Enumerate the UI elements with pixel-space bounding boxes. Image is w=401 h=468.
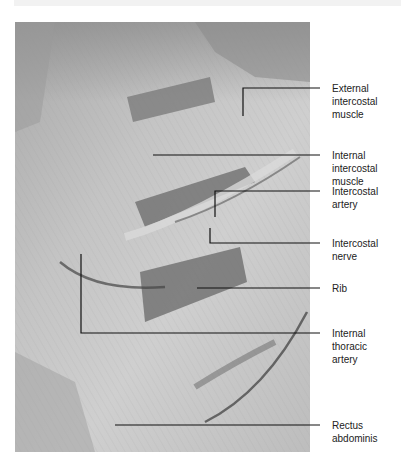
label-intercostal-nerve: Intercostal nerve <box>332 237 378 263</box>
label-rib: Rib <box>332 282 347 295</box>
label-internal-intercostal-muscle: Internal intercostal muscle <box>332 149 378 188</box>
label-rectus-abdominis: Rectus abdominis <box>332 419 378 445</box>
label-intercostal-artery: Intercostal artery <box>332 185 378 211</box>
label-internal-thoracic-artery: Internal thoracic artery <box>332 327 367 366</box>
label-external-intercostal-muscle: External intercostal muscle <box>332 82 378 121</box>
leader-lines <box>0 0 401 468</box>
